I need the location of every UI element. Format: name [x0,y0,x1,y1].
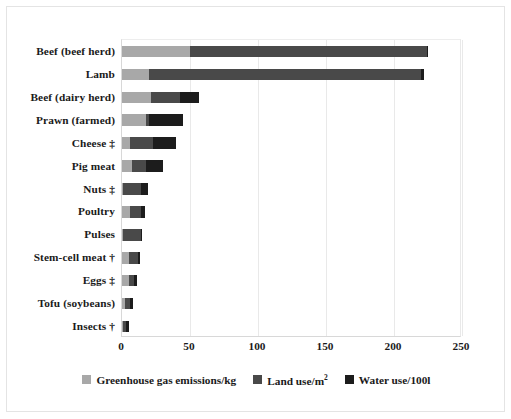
legend-label: Water use/100l [359,374,431,386]
legend-label: Greenhouse gas emissions/kg [96,374,236,386]
bar-segment-water [141,183,148,195]
stacked-bar-chart: Beef (beef herd)LambBeef (dairy herd)Pra… [7,7,506,413]
bar-segment-water [146,160,162,172]
bar-segment-ghg [122,275,129,287]
stacked-bar [122,298,133,310]
bar-row: Tofu (soybeans) [122,292,460,315]
stacked-bar [122,114,183,126]
category-label: Beef (dairy herd) [30,86,115,109]
stacked-bar [122,183,148,195]
bar-segment-ghg [122,206,130,218]
gridline-250 [462,40,463,336]
bar-segment-land [132,160,147,172]
bar-segment-land [129,252,139,264]
stacked-bar [122,69,424,81]
category-label: Pulses [84,223,115,246]
bar-segment-water [180,92,199,104]
bar-segment-water [126,321,129,333]
stacked-bar [122,275,137,287]
bar-segment-land [151,92,181,104]
bar-segment-water [141,229,142,241]
legend-item[interactable]: Land use/m2 [253,373,328,387]
category-label: Prawn (farmed) [36,109,115,132]
bar-segment-ghg [122,160,132,172]
bar-row: Prawn (farmed) [122,109,460,132]
chart-frame: Beef (beef herd)LambBeef (dairy herd)Pra… [6,6,505,412]
category-label: Stem-cell meat † [34,246,115,269]
x-tick-label: 250 [453,340,470,352]
category-label: Pig meat [72,155,115,178]
bar-segment-water [421,69,424,81]
bar-segment-ghg [122,92,151,104]
category-label: Nuts ‡ [83,178,115,201]
bar-segment-ghg [122,137,130,149]
stacked-bar [122,137,176,149]
category-label: Tofu (soybeans) [38,292,115,315]
x-tick-label: 200 [385,340,402,352]
x-tick-label: 50 [183,340,194,352]
bar-segment-land [123,183,141,195]
stacked-bar [122,321,129,333]
bar-row: Lamb [122,63,460,86]
category-label: Eggs ‡ [83,269,115,292]
x-tick-label: 100 [249,340,266,352]
legend-label: Land use/m2 [267,373,328,387]
x-tick-label: 0 [118,340,124,352]
bar-row: Nuts ‡ [122,178,460,201]
category-label: Lamb [86,63,115,86]
bar-segment-land [123,229,141,241]
legend-swatch-land [253,375,262,384]
stacked-bar [122,252,140,264]
bar-row: Pig meat [122,155,460,178]
bar-row: Beef (dairy herd) [122,86,460,109]
bar-segment-water [153,137,176,149]
x-axis-ticks: 050100150200250 [121,340,462,358]
category-label: Cheese ‡ [72,132,115,155]
bar-row: Insects † [122,315,460,338]
bar-segment-water [149,114,183,126]
bar-row: Stem-cell meat † [122,246,460,269]
bar-row: Eggs ‡ [122,269,460,292]
bar-segment-water [427,46,428,58]
bar-row: Poultry [122,200,460,223]
category-label: Insects † [72,315,115,338]
bar-segment-ghg [122,46,190,58]
stacked-bar [122,206,145,218]
bar-row: Cheese ‡ [122,132,460,155]
legend-swatch-ghg [82,375,91,384]
category-label: Beef (beef herd) [36,40,115,63]
bar-segment-land [130,137,153,149]
legend-swatch-water [345,375,354,384]
bar-row: Beef (beef herd) [122,40,460,63]
bar-segment-land [149,69,421,81]
bar-segment-ghg [122,69,149,81]
stacked-bar [122,46,428,58]
bar-segment-water [141,206,145,218]
stacked-bar [122,229,142,241]
legend-item[interactable]: Water use/100l [345,374,431,386]
x-tick-label: 150 [317,340,334,352]
bar-row: Pulses [122,223,460,246]
bar-segment-ghg [122,252,129,264]
bar-segment-land [130,206,141,218]
plot-area: Beef (beef herd)LambBeef (dairy herd)Pra… [121,39,461,337]
category-label: Poultry [78,200,115,223]
bar-segment-land [190,46,427,58]
bar-segment-water [138,252,139,264]
stacked-bar [122,160,163,172]
bar-segment-water [134,275,137,287]
bar-segment-water [130,298,133,310]
legend-item[interactable]: Greenhouse gas emissions/kg [82,374,236,386]
chart-legend: Greenhouse gas emissions/kgLand use/m2Wa… [7,373,506,387]
stacked-bar [122,92,199,104]
bar-segment-ghg [122,114,146,126]
